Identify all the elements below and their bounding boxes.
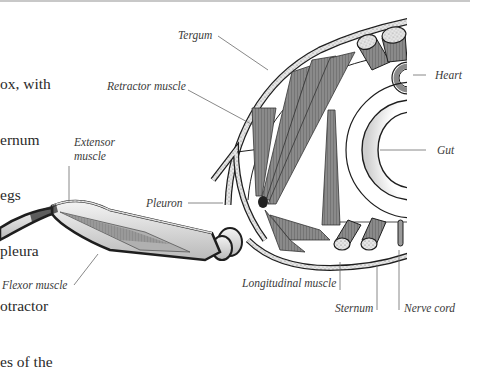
body-text-line: es of the	[0, 353, 53, 371]
label-extensor-muscle-2: muscle	[74, 150, 106, 163]
label-nerve-cord: Nerve cord	[404, 302, 455, 315]
label-pleuron: Pleuron	[146, 197, 183, 210]
ventral-longitudinal-muscles	[334, 218, 386, 250]
label-sternum: Sternum	[335, 302, 373, 315]
thoracic-muscles	[252, 52, 355, 252]
label-heart: Heart	[435, 69, 462, 82]
label-extensor-muscle: Extensor	[74, 136, 115, 149]
nerve-cord-shape	[398, 220, 403, 246]
label-gut: Gut	[437, 144, 454, 157]
label-retractor-muscle: Retractor muscle	[107, 80, 186, 93]
label-flexor-muscle: Flexor muscle	[2, 279, 67, 292]
heart-shape	[392, 62, 424, 94]
label-longitudinal-muscle: Longitudinal muscle	[242, 277, 336, 290]
leg-shape	[0, 201, 242, 260]
label-tergum: Tergum	[178, 29, 212, 42]
